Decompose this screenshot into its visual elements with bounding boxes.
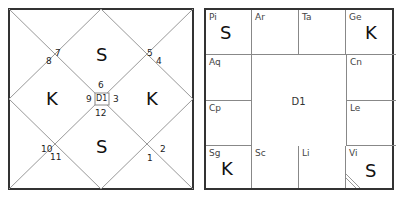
house-number: 11 <box>50 152 61 162</box>
cell-sg: Sg K <box>206 146 252 188</box>
house-number: 6 <box>98 80 104 90</box>
cell-cn: Cn <box>346 55 396 101</box>
cell-pi: Pi S <box>206 10 252 55</box>
cell-ge: Ge K <box>346 10 396 55</box>
north-indian-chart: D1 7 8 5 4 6 9 3 12 10 11 2 1 S K K S <box>8 8 194 190</box>
cell-sc: Sc <box>252 146 299 188</box>
house-number: 7 <box>55 48 61 58</box>
cell-ta: Ta <box>299 10 346 55</box>
house-number: 1 <box>147 153 153 163</box>
planet-left: K <box>46 88 58 109</box>
house-number: 5 <box>147 48 153 58</box>
center-label: D1 <box>252 56 345 146</box>
house-number: 2 <box>160 144 166 154</box>
cell-aq: Aq <box>206 55 252 101</box>
cell-vi: Vi S <box>346 146 396 188</box>
lagna-marker-icon <box>346 172 366 188</box>
planet-top: S <box>96 44 107 65</box>
south-indian-chart: Pi S Ar Ta Ge K Aq Cn Cp Le Sg K Sc Li V… <box>204 8 394 190</box>
cell-le: Le <box>346 101 396 146</box>
house-number: 12 <box>95 108 106 118</box>
house-number: 3 <box>113 94 119 104</box>
planet-bottom: S <box>96 136 107 157</box>
house-number: 9 <box>86 94 92 104</box>
cell-cp: Cp <box>206 101 252 146</box>
planet-right: K <box>146 88 158 109</box>
cell-ar: Ar <box>252 10 299 55</box>
center-label: D1 <box>96 94 107 103</box>
house-number: 8 <box>46 56 52 66</box>
house-number: 4 <box>156 56 162 66</box>
cell-li: Li <box>299 146 346 188</box>
